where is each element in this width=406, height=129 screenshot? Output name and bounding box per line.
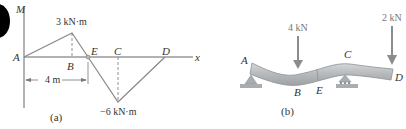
beam-point-d-label: D <box>395 72 403 83</box>
caption-b: (b) <box>281 106 294 117</box>
load-b-label: 4 kN <box>288 23 308 33</box>
roller-support-c <box>339 75 351 82</box>
point-d-label: D <box>162 46 170 57</box>
point-b-label: B <box>67 61 74 72</box>
point-e-label: E <box>91 46 98 57</box>
min-moment-label: −6 kN·m <box>100 107 136 117</box>
point-c-label: C <box>114 46 121 57</box>
ground-a <box>240 84 262 88</box>
beam <box>250 63 393 85</box>
beam-point-a-label: A <box>241 55 248 66</box>
beam-point-c-label: C <box>344 49 351 60</box>
point-a-label: A <box>13 52 20 63</box>
max-moment-label: 3 kN·m <box>56 17 87 27</box>
x-axis-label: x <box>195 52 200 63</box>
m-axis-label: M <box>16 4 25 15</box>
point-e-marker <box>86 55 90 59</box>
caption-a: (a) <box>50 112 62 123</box>
moment-curve <box>24 33 165 102</box>
load-d-label: 2 kN <box>382 13 402 23</box>
ground-c <box>336 84 358 88</box>
dimension-label: 4 m <box>44 75 61 85</box>
beam-point-e-label: E <box>316 85 323 96</box>
beam-point-b-label: B <box>294 87 301 98</box>
